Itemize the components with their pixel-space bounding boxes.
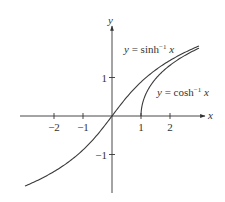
x-tick-label: 2 — [167, 121, 173, 133]
y-tick-label: −1 — [95, 149, 107, 161]
y-axis-label: y — [107, 14, 113, 26]
acosh-annotation: y = cosh−1 x — [156, 86, 209, 98]
x-tick-label: 1 — [138, 121, 144, 133]
acosh-annotation-var: x — [203, 86, 209, 98]
asinh-annotation-var: x — [168, 43, 174, 55]
x-tick-label: −1 — [77, 121, 89, 133]
acosh-annotation-main: = cosh — [162, 86, 194, 98]
asinh-annotation-main: = sinh — [129, 43, 160, 55]
y-tick-label: 1 — [102, 72, 108, 84]
acosh-curve — [141, 48, 199, 116]
x-axis-label: x — [207, 109, 213, 121]
inverse-hyperbolic-chart: x y −2−112 1−1 y = sinh−1 x y = cosh−1 x — [0, 0, 225, 202]
asinh-annotation: y = sinh−1 x — [123, 43, 174, 55]
x-tick-label: −2 — [48, 121, 60, 133]
